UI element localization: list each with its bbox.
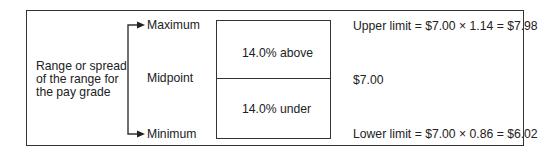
band-under-label: 14.0% under xyxy=(242,102,311,116)
band-above-label: 14.0% above xyxy=(242,46,313,60)
lower-limit-value: Lower limit = $7.00 × 0.86 = $6.02 xyxy=(353,127,538,141)
minimum-label: Minimum xyxy=(147,127,196,141)
upper-limit-value: Upper limit = $7.00 × 1.14 = $7.98 xyxy=(353,19,538,33)
midpoint-value: $7.00 xyxy=(353,73,384,87)
midpoint-label: Midpoint xyxy=(147,71,193,85)
midpoint-divider xyxy=(216,78,331,79)
maximum-label: Maximum xyxy=(147,18,200,32)
range-box xyxy=(216,20,331,139)
